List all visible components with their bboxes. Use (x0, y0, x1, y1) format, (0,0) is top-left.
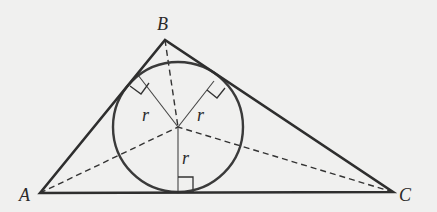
triangle-abc (40, 40, 393, 193)
radii (138, 75, 214, 192)
vertex-label-a: A (18, 185, 31, 205)
angle-bisectors (40, 40, 393, 193)
radius-label-ac: r (182, 148, 190, 168)
bisector-a (40, 127, 178, 193)
radius-bc (178, 81, 214, 127)
right-angle-marker-ab (130, 83, 149, 94)
right-angle-marker-bc (207, 88, 225, 98)
bisector-b (165, 40, 178, 127)
radius-label-ab: r (142, 105, 150, 125)
radius-label-bc: r (197, 105, 205, 125)
vertex-label-c: C (399, 185, 412, 205)
incircle-diagram: A B C r r r (0, 0, 437, 212)
vertex-label-b: B (157, 14, 168, 34)
diagram-svg: A B C r r r (0, 0, 437, 212)
